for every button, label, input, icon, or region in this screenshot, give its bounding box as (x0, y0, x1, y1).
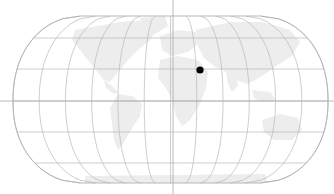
landmass (110, 94, 142, 150)
landmass (226, 72, 238, 92)
world-map[interactable] (0, 0, 334, 194)
landmass (85, 174, 268, 183)
continents-layer (72, 16, 302, 183)
landmass (262, 114, 302, 140)
location-marker-icon[interactable] (196, 66, 203, 73)
landmass (252, 90, 276, 102)
meridian-line (13, 16, 81, 183)
world-map-canvas[interactable] (0, 0, 334, 194)
landmass (104, 80, 118, 94)
landmass (160, 30, 198, 56)
